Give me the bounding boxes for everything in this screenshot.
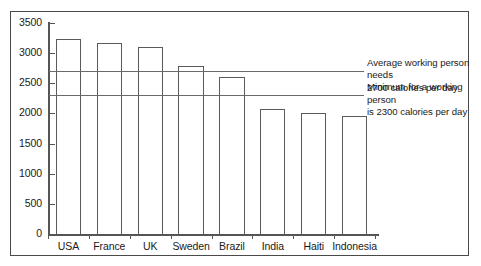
bar-indonesia[interactable] <box>342 116 367 234</box>
x-tick-mark <box>48 235 49 239</box>
bar-sweden[interactable] <box>178 66 203 234</box>
bar-usa[interactable] <box>56 39 81 234</box>
y-axis-tick-label: 2000 <box>8 106 42 118</box>
annotation-minimum-need-line: Minimum for a working person is 2300 cal… <box>367 81 479 118</box>
average-need-line <box>49 71 364 72</box>
y-axis-tick-label: 0 <box>8 227 42 239</box>
bar-uk[interactable] <box>138 47 163 234</box>
x-tick-mark <box>334 235 335 239</box>
x-tick-mark <box>89 235 90 239</box>
y-tick-mark <box>50 204 55 205</box>
plot-area: 0500100015002000250030003500USAFranceUKS… <box>11 12 470 257</box>
bar-haiti[interactable] <box>301 113 326 234</box>
y-axis-tick-label: 3000 <box>8 46 42 58</box>
chart-frame: 0500100015002000250030003500USAFranceUKS… <box>10 11 469 256</box>
bar-india[interactable] <box>260 109 285 234</box>
x-tick-mark <box>252 235 253 239</box>
y-tick-mark <box>50 53 55 54</box>
x-axis-line <box>48 234 379 236</box>
x-axis-label-indonesia: Indonesia <box>324 240 385 252</box>
y-tick-mark <box>50 83 55 84</box>
bar-brazil[interactable] <box>219 77 244 234</box>
bar-france[interactable] <box>97 43 122 234</box>
y-tick-mark <box>50 113 55 114</box>
x-tick-mark <box>130 235 131 239</box>
x-tick-mark <box>375 235 376 239</box>
minimum-need-line <box>49 95 364 96</box>
x-tick-mark <box>212 235 213 239</box>
y-tick-mark <box>50 144 55 145</box>
y-tick-mark <box>50 234 55 235</box>
y-axis-tick-label: 1000 <box>8 167 42 179</box>
y-tick-mark <box>50 23 55 24</box>
y-axis-tick-label: 500 <box>8 197 42 209</box>
x-tick-mark <box>171 235 172 239</box>
x-tick-mark <box>293 235 294 239</box>
y-axis-tick-label: 2500 <box>8 76 42 88</box>
y-axis-tick-label: 3500 <box>8 16 42 28</box>
y-axis-tick-label: 1500 <box>8 137 42 149</box>
y-tick-mark <box>50 174 55 175</box>
